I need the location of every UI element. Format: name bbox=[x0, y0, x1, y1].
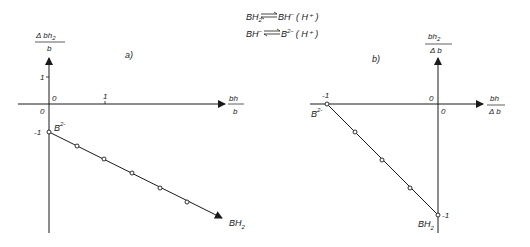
panel-b-y-axis-label: bh2 Δ b bbox=[425, 32, 452, 55]
panel-a-x-tick-1: 1 bbox=[103, 92, 107, 101]
equilibrium-arrow-icon bbox=[261, 12, 277, 19]
panel-a-start-label: B2- bbox=[54, 121, 65, 133]
panel-b-label: b) bbox=[372, 54, 380, 64]
panel-b-y-tick-m1: -1 bbox=[442, 211, 449, 220]
svg-text:Δ b: Δ b bbox=[488, 107, 501, 116]
panel-a-y-tick-m1: -1 bbox=[34, 128, 41, 137]
svg-text:BH−: BH− bbox=[246, 28, 263, 39]
panel-b-x-axis-label: bh Δ b bbox=[487, 94, 505, 116]
panel-a-origin-y: 0 bbox=[40, 107, 45, 116]
svg-text:bh2: bh2 bbox=[428, 32, 441, 42]
svg-text:BH2: BH2 bbox=[246, 12, 263, 23]
svg-text:BH−( H⁺ ): BH−( H⁺ ) bbox=[278, 11, 319, 22]
panel-a-x-axis-label: bh b bbox=[228, 94, 244, 116]
panel-a: a) Δ bh2 b bh b 1 1 0 0 -1 bbox=[18, 31, 246, 233]
svg-text:b: b bbox=[47, 44, 52, 53]
svg-text:bh: bh bbox=[229, 94, 238, 103]
equation-1: BH2 BH−( H⁺ ) bbox=[246, 11, 319, 23]
panel-a-y-tick-1: 1 bbox=[40, 73, 44, 82]
panel-b-origin-x: 0 bbox=[429, 94, 434, 103]
panel-b-end-label: BH2 bbox=[418, 219, 435, 231]
panel-a-origin-x: 0 bbox=[52, 94, 57, 103]
equilibrium-arrow-icon bbox=[264, 29, 280, 36]
svg-text:B2−( H⁺ ): B2−( H⁺ ) bbox=[281, 28, 318, 39]
svg-text:bh: bh bbox=[490, 94, 499, 103]
panel-b-x-tick-m1: -1 bbox=[322, 91, 329, 100]
equation-2: BH− B2−( H⁺ ) bbox=[246, 28, 318, 39]
svg-text:b: b bbox=[233, 107, 238, 116]
panel-a-label: a) bbox=[125, 50, 133, 60]
panel-b-origin-y: 0 bbox=[441, 107, 446, 116]
svg-text:Δ bh2: Δ bh2 bbox=[35, 31, 56, 41]
diagram-canvas: BH2 BH−( H⁺ ) BH− B2−( H⁺ ) a) Δ bh2 b bbox=[0, 0, 530, 247]
panel-b: b) bh2 Δ b bh Δ b -1 0 0 -1 B2- BH bbox=[310, 32, 505, 233]
panel-a-y-axis-label: Δ bh2 b bbox=[35, 31, 65, 53]
panel-b-start-label: B2- bbox=[311, 107, 322, 119]
panel-a-end-label: BH2 bbox=[229, 218, 246, 230]
svg-text:Δ b: Δ b bbox=[429, 46, 442, 55]
